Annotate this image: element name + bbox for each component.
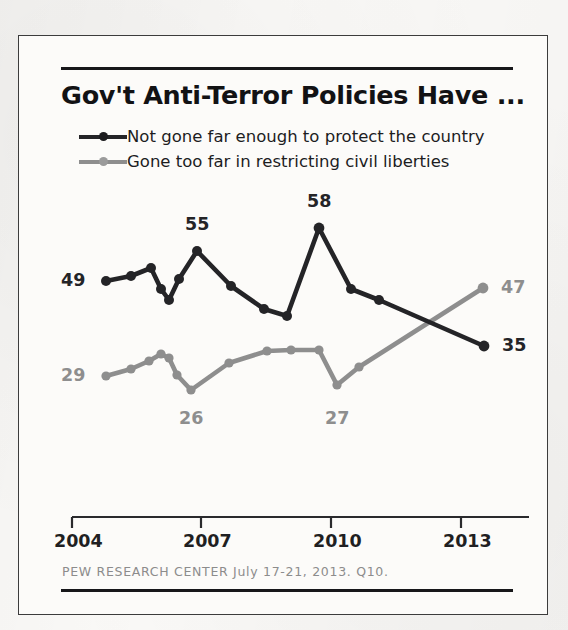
data-label-dark-end: 35 xyxy=(502,335,526,355)
x-tick-label-2013: 2013 xyxy=(443,531,492,551)
scanned-page: Gov't Anti-Terror Policies Have ... Not … xyxy=(0,0,568,630)
data-label-dark-peak: 55 xyxy=(185,214,209,234)
x-tick-label-2010: 2010 xyxy=(313,531,362,551)
data-label-gray-dip: 27 xyxy=(325,408,349,428)
x-tick-label-2004: 2004 xyxy=(54,531,103,551)
data-label-gray-start: 29 xyxy=(61,365,85,385)
series-line-gone-too-far xyxy=(106,288,483,390)
data-label-dark-spike: 58 xyxy=(307,191,331,211)
chart-frame: Gov't Anti-Terror Policies Have ... Not … xyxy=(18,35,548,615)
footer-rule xyxy=(61,589,513,592)
data-label-dark-start: 49 xyxy=(61,270,85,290)
data-label-gray-low: 26 xyxy=(179,408,203,428)
x-axis xyxy=(72,517,529,528)
x-tick-label-2007: 2007 xyxy=(183,531,232,551)
data-label-gray-end: 47 xyxy=(501,277,525,297)
line-chart-plot: 49 55 58 35 29 26 27 47 2004 2007 2010 2… xyxy=(19,36,549,616)
source-note: PEW RESEARCH CENTER July 17-21, 2013. Q1… xyxy=(62,564,389,579)
chart-svg xyxy=(19,36,549,616)
